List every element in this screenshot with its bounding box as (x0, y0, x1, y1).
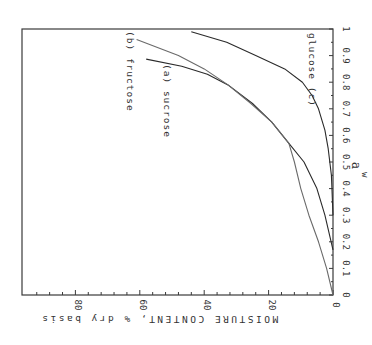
plot-frame (22, 29, 333, 295)
glucose-label: glucose (c) (307, 33, 318, 107)
fructose-label: (b) fructose (125, 31, 136, 112)
aw-tick-label: 0.2 (341, 234, 351, 250)
moisture-tick-label: 60 (138, 300, 148, 311)
curve-sucrose (146, 59, 333, 250)
aw-tick-label: 0.7 (341, 101, 351, 117)
aw-tick-label: 0.4 (341, 180, 351, 196)
moisture-axis-label: MOISTURE CONTENT, % dry basis (40, 314, 278, 325)
aw-tick-label: 0.3 (341, 207, 351, 223)
aw-tick-label: 1 (341, 26, 351, 31)
aw-tick-label: 0.1 (341, 260, 351, 276)
aw-axis-label: a (349, 162, 363, 169)
aw-tick-label: 0 (341, 292, 351, 297)
plot-area: 00.10.20.30.40.50.60.70.80.91020406080(b… (22, 26, 370, 325)
moisture-sorption-chart: 00.10.20.30.40.50.60.70.80.91020406080(b… (0, 0, 372, 345)
sucrose-label: (a) sucrose (162, 64, 173, 138)
aw-tick-label: 0.6 (341, 127, 351, 143)
aw-axis-subscript: w (360, 172, 370, 178)
moisture-tick-label: 20 (267, 300, 277, 311)
aw-tick-label: 0.8 (341, 74, 351, 90)
moisture-tick-label: 0 (331, 302, 341, 307)
moisture-tick-label: 80 (73, 300, 83, 311)
moisture-tick-label: 40 (202, 300, 212, 311)
aw-tick-label: 0.9 (341, 47, 351, 63)
